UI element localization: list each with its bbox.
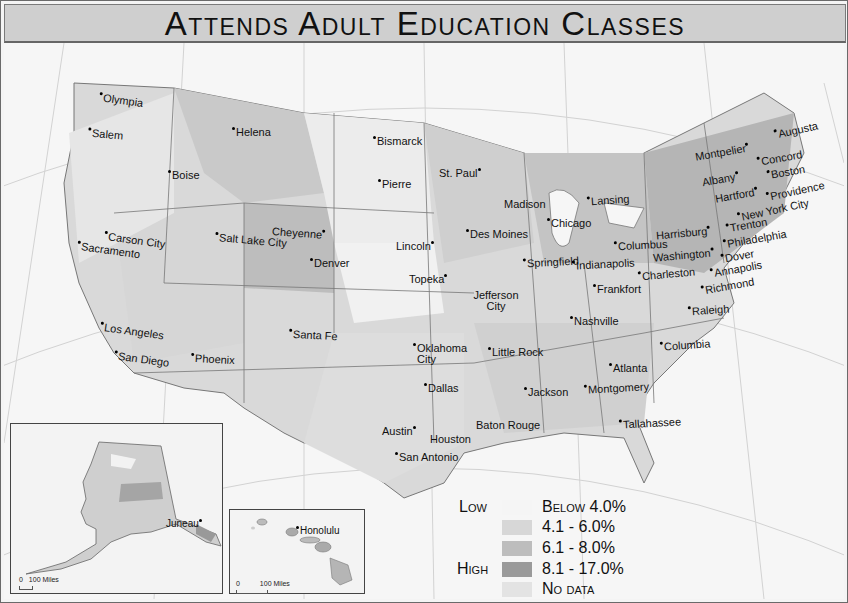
city-dot-icon: [756, 157, 759, 160]
city-label: Chicago: [547, 218, 591, 229]
city-dot-icon: [587, 196, 590, 199]
city-dot-icon: [373, 136, 376, 139]
city-label: Oklahoma City: [413, 343, 467, 365]
legend-swatch: [502, 562, 532, 577]
city-dot-icon: [619, 419, 622, 422]
city-dot-icon: [296, 526, 299, 529]
city-label: Austin: [382, 426, 417, 437]
city-label: Pierre: [378, 179, 411, 190]
city-dot-icon: [773, 129, 777, 133]
city-label-juneau: Juneau: [166, 519, 203, 529]
city-dot-icon: [609, 363, 612, 366]
city-label: Dallas: [424, 383, 459, 394]
city-dot-icon: [100, 92, 103, 95]
city-dot-icon: [413, 426, 416, 429]
city-dot-icon: [478, 168, 481, 171]
legend-item: 6.1 - 8.0%: [502, 539, 615, 557]
scale-line: [19, 586, 33, 590]
city-dot-icon: [215, 232, 218, 235]
legend-item: 8.1 - 17.0%: [502, 560, 624, 578]
city-dot-icon: [289, 329, 292, 332]
city-dot-icon: [232, 127, 235, 130]
scale-line: [236, 590, 268, 594]
hawaii-scale-bar: 0 100 Miles: [236, 580, 290, 587]
city-dot-icon: [431, 241, 434, 244]
city-label: Boise: [168, 170, 200, 181]
city-label: Madison: [504, 199, 546, 210]
city-dot-icon: [584, 385, 587, 388]
city-dot-icon: [734, 171, 737, 174]
city-dot-icon: [638, 271, 641, 274]
city-dot-icon: [101, 322, 104, 325]
city-dot-icon: [395, 452, 398, 455]
city-label: Des Moines: [466, 229, 528, 240]
map-title: Attends Adult Education Classes: [165, 7, 685, 40]
legend-low-label: Low: [459, 498, 487, 516]
hawaii-inset: Honolulu 0 100 Miles: [229, 509, 365, 594]
legend-swatch: [502, 500, 532, 515]
city-label: Frankfort: [593, 284, 641, 295]
legend-item: 4.1 - 6.0%: [502, 518, 615, 536]
city-dot-icon: [191, 353, 194, 356]
city-dot-icon: [88, 127, 91, 130]
alaska-inset: Juneau 0 100 Miles: [10, 423, 223, 594]
alaska-scale-bar: 0 100 Miles: [19, 576, 59, 583]
city-dot-icon: [444, 274, 447, 277]
city-dot-icon: [720, 253, 723, 256]
city-dot-icon: [466, 229, 469, 232]
city-dot-icon: [378, 179, 381, 182]
city-label: Nashville: [570, 316, 619, 327]
city-label: Jefferson City: [472, 290, 520, 312]
city-dot-icon: [115, 350, 118, 353]
city-dot-icon: [688, 306, 691, 309]
map-frame: Attends Adult Education Classes: [0, 0, 848, 603]
city-dot-icon: [413, 343, 416, 346]
city-dot-icon: [709, 268, 712, 271]
city-dot-icon: [614, 241, 617, 244]
city-label: Denver: [310, 258, 349, 269]
city-label: Topeka: [409, 274, 448, 285]
city-label: Helena: [232, 127, 271, 138]
title-bar: Attends Adult Education Classes: [4, 4, 846, 43]
city-dot-icon: [723, 239, 726, 242]
city-dot-icon: [78, 241, 81, 244]
map-area: Olympia Salem Helena Boise Bismarck Pier…: [4, 43, 844, 599]
city-label-honolulu: Honolulu: [296, 526, 339, 536]
city-dot-icon: [725, 223, 728, 226]
city-label: San Antonio: [395, 452, 458, 463]
city-dot-icon: [754, 186, 757, 189]
city-dot-icon: [766, 192, 770, 196]
legend-item: No data: [502, 580, 594, 598]
city-dot-icon: [105, 231, 108, 234]
city-dot-icon: [570, 316, 573, 319]
city-label: Houston: [430, 434, 471, 445]
city-dot-icon: [593, 284, 596, 287]
city-dot-icon: [199, 519, 202, 522]
city-label: Little Rock: [488, 347, 543, 358]
city-dot-icon: [745, 142, 748, 145]
city-dot-icon: [547, 218, 550, 221]
city-dot-icon: [572, 260, 575, 263]
legend-item: Below 4.0%: [502, 498, 626, 516]
city-label: Phoenix: [191, 353, 235, 366]
city-label: Baton Rouge: [476, 420, 540, 431]
city-dot-icon: [660, 342, 663, 345]
city-dot-icon: [710, 247, 713, 250]
legend-swatch: [502, 582, 532, 597]
city-dot-icon: [737, 212, 741, 216]
city-dot-icon: [707, 226, 710, 229]
legend-high-label: High: [457, 560, 488, 578]
city-dot-icon: [523, 258, 526, 261]
city-dot-icon: [700, 285, 703, 288]
city-dot-icon: [766, 170, 769, 173]
legend-swatch: [502, 541, 532, 556]
city-label: St. Paul: [439, 168, 482, 179]
city-label: Jackson: [524, 387, 568, 398]
city-dot-icon: [524, 387, 527, 390]
alaska-shape: [11, 424, 222, 593]
city-label: Bismarck: [373, 136, 422, 147]
city-dot-icon: [488, 347, 491, 350]
city-dot-icon: [168, 170, 171, 173]
city-label: Lincoln: [396, 241, 435, 252]
city-dot-icon: [310, 258, 313, 261]
